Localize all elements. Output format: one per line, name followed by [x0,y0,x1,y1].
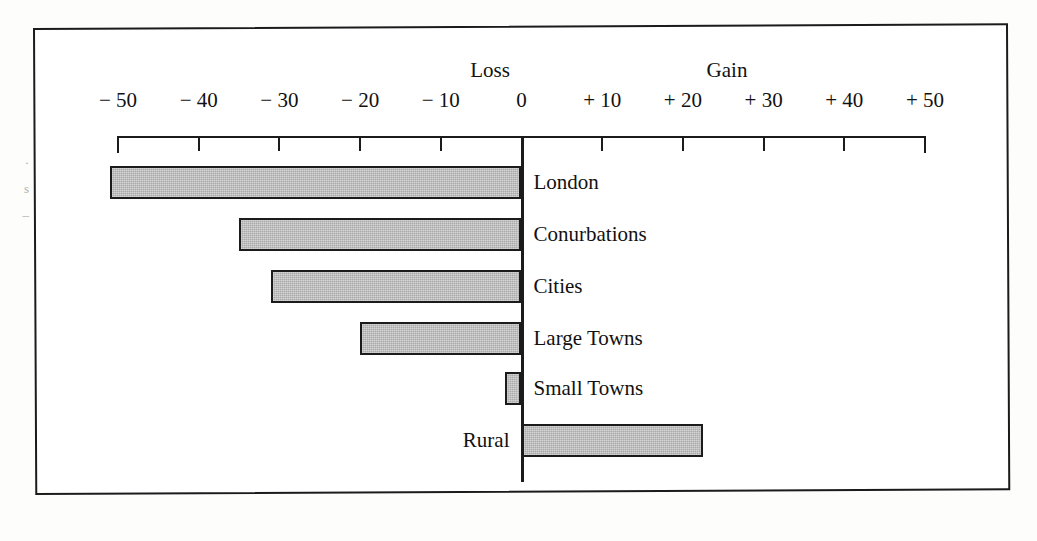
bar-label-rural: Rural [463,428,510,453]
x-tick-7 [682,136,684,151]
bar-london [110,166,522,199]
x-tick-4 [440,136,442,151]
bar-label-conurbations: Conurbations [534,222,647,247]
x-tick-1 [198,136,200,151]
bar-label-cities: Cities [534,274,583,299]
bar-conurbations [239,218,521,251]
bar-label-large-towns: Large Towns [534,326,643,351]
x-tick-6 [601,136,603,151]
x-tick-label-6: + 10 [583,88,621,113]
x-tick-2 [278,136,280,151]
x-tick-8 [763,136,765,151]
x-tick-3 [359,136,361,151]
bar-rural [522,424,704,457]
x-tick-label-0: − 50 [99,88,137,113]
x-tick-0 [117,136,119,153]
x-tick-label-8: + 30 [745,88,783,113]
x-tick-label-2: − 30 [260,88,298,113]
bar-label-small-towns: Small Towns [534,376,644,401]
x-tick-9 [843,136,845,151]
loss-side-label: Loss [470,58,510,83]
x-tick-label-3: − 20 [341,88,379,113]
x-tick-label-1: − 40 [180,88,218,113]
bar-label-london: London [534,170,599,195]
x-tick-5 [521,136,523,151]
x-tick-label-5: 0 [516,88,527,113]
x-tick-label-4: − 10 [422,88,460,113]
gain-side-label: Gain [707,58,748,83]
bar-large-towns [360,322,521,355]
x-tick-label-9: + 40 [825,88,863,113]
x-tick-label-7: + 20 [664,88,702,113]
figure-page: · s – Loss Gain − 50− 40− 30− 20− 100+ 1… [0,0,1037,541]
bar-small-towns [505,372,521,405]
bar-chart: Loss Gain − 50− 40− 30− 20− 100+ 10+ 20+… [0,0,1037,541]
bar-cities [271,270,521,303]
x-tick-label-10: + 50 [906,88,944,113]
x-tick-10 [924,136,926,153]
